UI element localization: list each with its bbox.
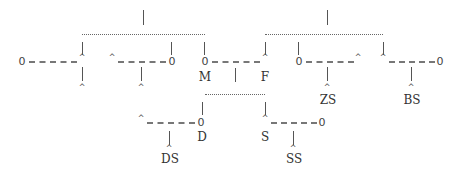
- marriage-line: [306, 61, 354, 63]
- left-top-stem: [143, 10, 144, 25]
- marriage-line: [118, 61, 166, 63]
- zero-node: 0: [198, 117, 205, 128]
- zero-node: 0: [437, 56, 444, 67]
- offspring-stem: [293, 131, 294, 145]
- right-drop-1: [265, 42, 266, 55]
- marriage-line: [271, 122, 317, 124]
- marriage-line: [212, 61, 260, 63]
- right-drop-2: [298, 42, 299, 55]
- left-drop-3: [204, 42, 205, 55]
- zero-node: 0: [319, 117, 326, 128]
- caret-node: ^: [408, 84, 415, 92]
- caret-node: ^: [109, 54, 116, 62]
- label-ds: DS: [161, 153, 179, 165]
- caret-node: ^: [138, 115, 145, 123]
- caret-node: ^: [324, 84, 331, 92]
- right-sibship-line: [265, 34, 383, 35]
- caret-node: ^: [355, 54, 362, 62]
- caret-node: ^: [138, 84, 145, 92]
- offspring-stem: [141, 67, 142, 81]
- pedigree-diagram: 0 ^ ^ ^ 0 ^ 0 ^ M F 0 ^ ^ ZS ^ 0 ^ BS ^ …: [0, 0, 465, 172]
- label-d: D: [197, 131, 207, 143]
- offspring-stem: [169, 131, 170, 145]
- label-f: F: [261, 71, 269, 83]
- caret-node: ^: [79, 54, 86, 62]
- caret-node: ^: [79, 84, 86, 92]
- zero-node: 0: [169, 56, 176, 67]
- label-m: M: [199, 71, 211, 83]
- offspring-stem: [82, 67, 83, 81]
- label-s: S: [261, 131, 269, 143]
- zero-node: 0: [19, 56, 26, 67]
- left-drop-2: [171, 42, 172, 55]
- label-ss: SS: [286, 153, 302, 165]
- caret-node: ^: [262, 54, 269, 62]
- label-bs: BS: [403, 94, 420, 106]
- child-drop-d: [202, 102, 203, 115]
- zero-node: 0: [202, 56, 209, 67]
- children-sibship-line: [205, 94, 265, 95]
- caret-node: ^: [380, 54, 387, 62]
- marriage-line: [389, 61, 435, 63]
- offspring-stem: [411, 67, 412, 81]
- zero-node: 0: [296, 56, 303, 67]
- marriage-line: [29, 61, 77, 63]
- label-zs: ZS: [320, 94, 337, 106]
- caret-node: ^: [262, 115, 269, 123]
- mf-offspring-stem: [235, 68, 236, 82]
- right-top-stem: [327, 10, 328, 25]
- marriage-line: [147, 122, 195, 124]
- left-sibship-line: [82, 34, 205, 35]
- offspring-stem: [327, 67, 328, 81]
